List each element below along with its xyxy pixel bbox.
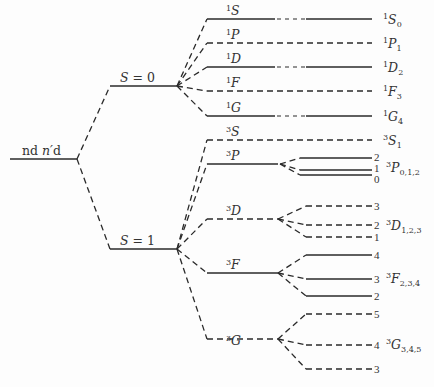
term-label-3G: 3G (226, 333, 241, 348)
j-3F-4: 4 (374, 249, 380, 261)
singlet-connectors (177, 19, 207, 116)
j-3P-0: 0 (374, 173, 380, 185)
level-label-3G345: 3G3,4,5 (386, 337, 421, 354)
term-label-1G: 1G (226, 100, 241, 115)
j-sublevel-numbers: 2 1 0 3 2 1 4 3 2 5 4 3 (374, 151, 380, 375)
diagram-svg: .s { stroke: #2a2a2a; stroke-width: 1.6;… (0, 0, 434, 387)
configuration-label: nd n′d (22, 143, 61, 158)
level-label-1G4: 1G4 (383, 109, 403, 126)
term-label-1D: 1D (226, 51, 241, 66)
term-label-3S: 3S (226, 124, 240, 139)
term-label-3P: 3P (226, 148, 240, 163)
term-label-1P: 1P (226, 27, 240, 42)
level-label-1D2: 1D2 (383, 60, 403, 77)
term-label-1F: 1F (226, 75, 241, 90)
j-3G-3: 3 (374, 363, 380, 375)
level-label-1P1: 1P1 (383, 36, 402, 53)
term-label-3D: 3D (226, 203, 241, 218)
level-label-3F234: 3F2,3,4 (386, 271, 420, 288)
level-label-3P012: 3P0,1,2 (386, 160, 420, 177)
j-3D-3: 3 (374, 200, 380, 212)
term-labels: 1S 1P 1D 1F 1G 3S 3P 3D 3F 3G (226, 3, 241, 348)
level-label-3D123: 3D1,2,3 (386, 218, 421, 235)
j-3D-2: 2 (374, 219, 380, 231)
j-3G-4: 4 (374, 339, 380, 351)
spin-label-S1: S = 1 (120, 233, 155, 248)
j-3F-3: 3 (374, 273, 380, 285)
j-3F-2: 2 (374, 290, 380, 302)
configuration-level: nd n′d (10, 143, 77, 159)
spin-label-S0: S = 0 (120, 70, 155, 85)
term-label-3F: 3F (226, 257, 241, 272)
config-to-spin-connectors (77, 86, 110, 249)
triplet-connectors (177, 140, 207, 339)
level-label-1S0: 1S0 (383, 12, 402, 29)
spin-level-S0: S = 0 (110, 70, 177, 86)
energy-level-diagram: .s { stroke: #2a2a2a; stroke-width: 1.6;… (0, 0, 434, 387)
level-label-3S1: 3S1 (383, 133, 402, 150)
spin-level-S1: S = 1 (110, 233, 177, 249)
level-label-1F3: 1F3 (383, 84, 402, 101)
j-3G-5: 5 (374, 308, 380, 320)
final-level-labels: 1S0 1P1 1D2 1F3 1G4 3S1 3P0,1,2 3D1,2,3 … (383, 12, 421, 354)
j-3D-1: 1 (374, 231, 380, 243)
term-label-1S: 1S (226, 3, 240, 18)
